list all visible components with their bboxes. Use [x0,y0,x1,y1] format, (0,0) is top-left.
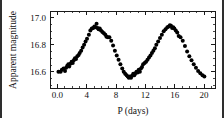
x-tick-label: 8 [114,90,119,100]
data-point [85,37,89,41]
y-tick-label: 16.6 [30,67,46,77]
data-point [192,62,196,66]
data-point [107,35,111,39]
data-point [181,39,185,43]
data-point [109,39,113,43]
data-point [179,35,183,39]
data-point [158,36,162,40]
light-curve-chart: 0.048121620 16.616.817.0 P (days) Appare… [2,0,224,118]
data-point [160,33,164,37]
x-axis-label: P (days) [117,106,148,117]
data-point [183,44,187,48]
data-point [111,43,115,47]
x-tick-label: 0.0 [52,90,64,100]
data-point [118,62,122,66]
data-points [56,22,206,80]
y-tick-label: 17.0 [30,13,46,23]
y-axis-label: Apparent magnitude [8,11,18,89]
data-point [113,49,117,53]
x-tick-label: 16 [170,90,180,100]
y-axis-major-ticks [50,18,215,72]
data-point [202,75,206,79]
data-point [194,66,198,70]
data-point [187,54,191,58]
x-tick-label: 20 [200,90,210,100]
data-point [138,70,142,74]
x-tick-label: 12 [141,90,150,100]
data-point [154,43,158,47]
figure-container: 0.048121620 16.616.817.0 P (days) Appare… [0,0,224,118]
data-point [95,22,99,26]
y-axis-tick-labels: 16.616.817.0 [30,13,46,77]
data-point [87,33,91,37]
data-point [115,54,119,58]
x-axis-tick-labels: 0.048121620 [52,90,209,100]
data-point [185,50,189,54]
data-point [156,39,160,43]
x-tick-label: 4 [84,90,89,100]
data-point [190,58,194,62]
y-tick-label: 16.8 [30,40,46,50]
data-point [117,58,121,62]
